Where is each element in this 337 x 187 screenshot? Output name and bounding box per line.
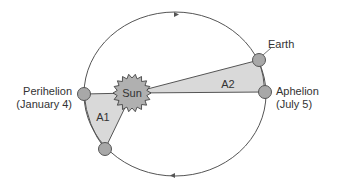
area-a2-sector [132, 60, 265, 93]
orbit-arrow-bottom-icon [170, 173, 175, 178]
earth-label: Earth [268, 38, 294, 50]
area-a2-label: A2 [221, 78, 234, 90]
kepler-orbit-diagram: Sun Earth Perihelion (January 4) Aphelio… [0, 0, 337, 187]
perihelion-label: Perihelion [23, 85, 72, 97]
perihelion-date: (January 4) [16, 98, 72, 110]
planet-lower [99, 143, 112, 156]
planet-earth [253, 54, 266, 67]
aphelion-label: Aphelion [276, 85, 319, 97]
planet-aphelion [259, 86, 272, 99]
orbit-arrow-top-icon [174, 12, 179, 17]
area-a1-label: A1 [96, 111, 109, 123]
sun-label: Sun [122, 87, 142, 99]
aphelion-date: (July 5) [276, 98, 312, 110]
planet-perihelion [78, 88, 91, 101]
